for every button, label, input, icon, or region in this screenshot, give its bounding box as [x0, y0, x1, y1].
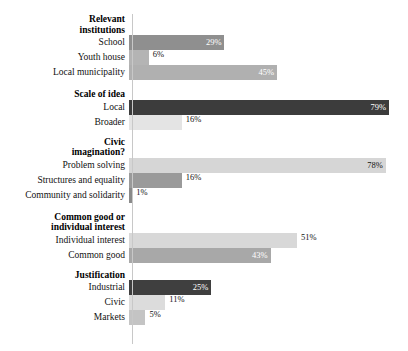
- bar-group-header-line: individual interest: [0, 222, 125, 233]
- bar-track: 43%: [129, 248, 408, 263]
- category-axis-line: [132, 14, 133, 344]
- bar-value-label: 45%: [259, 68, 278, 77]
- group-spacer: [0, 80, 408, 89]
- bar-row: Common good43%: [0, 248, 408, 263]
- bar-row: Civic11%: [0, 295, 408, 310]
- bar-track: 16%: [129, 115, 408, 130]
- bar-group: JustificationIndustrial25%Civic11%Market…: [0, 270, 408, 326]
- bar-value-label: 78%: [367, 161, 386, 170]
- bar-row: Broader16%: [0, 115, 408, 130]
- bar-track: 1%: [129, 188, 408, 203]
- bar-group-header-line: Common good or: [0, 212, 125, 223]
- bar-category-label: Youth house: [0, 52, 129, 63]
- bar-group-header: Relevantinstitutions: [0, 14, 129, 35]
- bar-group-header: Common good orindividual interest: [0, 212, 129, 233]
- bar-row: Community and solidarity1%: [0, 188, 408, 203]
- bar: 43%: [129, 248, 271, 263]
- bar-group: Common good orindividual interestIndivid…: [0, 212, 408, 263]
- bar: 45%: [129, 65, 277, 80]
- bar-category-label: Local: [0, 102, 129, 113]
- bar-group: RelevantinstitutionsSchool29%Youth house…: [0, 14, 408, 80]
- bar: [129, 295, 165, 310]
- bar-value-label: 29%: [206, 38, 225, 47]
- bar-value-label: 16%: [182, 173, 202, 182]
- bar-group-header-line: Civic: [0, 137, 125, 148]
- bar-value-label: 43%: [252, 251, 271, 260]
- bar-row: Local municipality45%: [0, 65, 408, 80]
- bar-track: 5%: [129, 310, 408, 325]
- bar-row: Local79%: [0, 100, 408, 115]
- bar-group-header-line: Scale of idea: [0, 89, 125, 100]
- bar: 78%: [129, 158, 386, 173]
- bar: [129, 173, 182, 188]
- bar: 25%: [129, 280, 211, 295]
- bar-value-label: 5%: [145, 310, 160, 319]
- bar-track: 6%: [129, 50, 408, 65]
- bar-track: 11%: [129, 295, 408, 310]
- bar-group-header-line: Relevant: [0, 14, 125, 25]
- group-spacer: [0, 203, 408, 212]
- bar-track: 78%: [129, 158, 408, 173]
- bar-row: School29%: [0, 35, 408, 50]
- bar-group: Civicimagination?Problem solving78%Struc…: [0, 137, 408, 203]
- bar-value-label: 6%: [149, 50, 164, 59]
- bar-category-label: Common good: [0, 250, 129, 261]
- bar-track: 16%: [129, 173, 408, 188]
- bar-group-header: Scale of idea: [0, 89, 129, 100]
- bar-row: Problem solving78%: [0, 158, 408, 173]
- bar-value-label: 79%: [371, 103, 390, 112]
- bar-track: 29%: [129, 35, 408, 50]
- bar-value-label: 16%: [182, 115, 202, 124]
- bar-track: 51%: [129, 233, 408, 248]
- bar-chart: RelevantinstitutionsSchool29%Youth house…: [0, 0, 408, 351]
- bar-category-label: Industrial: [0, 282, 129, 293]
- bar-category-label: Markets: [0, 312, 129, 323]
- bar-row: Industrial25%: [0, 280, 408, 295]
- bar-track: 45%: [129, 65, 408, 80]
- bar-row: Markets5%: [0, 310, 408, 325]
- bar-track: 25%: [129, 280, 408, 295]
- bar-category-label: Structures and equality: [0, 175, 129, 186]
- bar-value-label: 25%: [193, 283, 212, 292]
- bar-category-label: School: [0, 37, 129, 48]
- bar-group-header: Justification: [0, 270, 129, 281]
- group-spacer: [0, 263, 408, 270]
- bar-row: Youth house6%: [0, 50, 408, 65]
- bar-value-label: 1%: [132, 188, 147, 197]
- bar-value-label: 51%: [297, 233, 317, 242]
- bar: 29%: [129, 35, 224, 50]
- bar-category-label: Community and solidarity: [0, 190, 129, 201]
- bar-category-label: Local municipality: [0, 67, 129, 78]
- bar-category-label: Broader: [0, 117, 129, 128]
- bar: [129, 115, 182, 130]
- bar-group-header-line: Justification: [0, 270, 125, 281]
- bar: [129, 233, 297, 248]
- bar-group-header-line: institutions: [0, 25, 125, 36]
- bar-group-header: Civicimagination?: [0, 137, 129, 158]
- bar-group: Scale of ideaLocal79%Broader16%: [0, 89, 408, 130]
- bar-group-header-line: imagination?: [0, 147, 125, 158]
- bar: 79%: [129, 100, 389, 115]
- bar-category-label: Problem solving: [0, 160, 129, 171]
- group-spacer: [0, 130, 408, 137]
- bar-row: Structures and equality16%: [0, 173, 408, 188]
- bar-category-label: Civic: [0, 297, 129, 308]
- bar-row: Individual interest51%: [0, 233, 408, 248]
- bar-track: 79%: [129, 100, 408, 115]
- bar-category-label: Individual interest: [0, 235, 129, 246]
- bar-value-label: 11%: [165, 295, 184, 304]
